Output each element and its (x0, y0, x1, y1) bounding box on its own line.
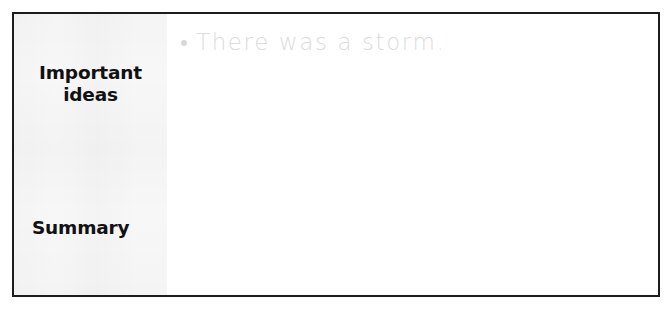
worksheet-page: Important ideas Summary There was a stor… (0, 0, 672, 315)
worksheet-frame: Important ideas Summary There was a stor… (12, 12, 660, 297)
section-label-important-ideas: Important ideas (14, 62, 167, 106)
label-column: Important ideas Summary (14, 14, 167, 295)
list-item[interactable]: There was a storm. (181, 28, 648, 57)
summary-label-text: Summary (32, 217, 129, 238)
important-ideas-line-2: ideas (63, 84, 118, 105)
important-ideas-list: There was a storm. (181, 28, 648, 57)
bullet-point-icon (181, 40, 187, 46)
section-label-summary: Summary (14, 217, 167, 239)
content-writing-area[interactable]: There was a storm. (167, 14, 658, 295)
list-item-text: There was a storm. (196, 28, 445, 57)
important-ideas-line-1: Important (39, 62, 142, 83)
